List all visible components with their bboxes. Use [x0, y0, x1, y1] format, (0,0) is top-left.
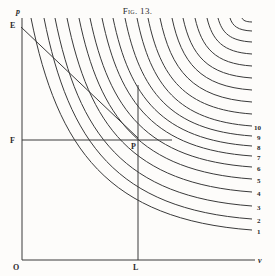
curve-18 [230, 18, 252, 31]
curve-label-9: 9 [257, 135, 261, 142]
curve-label-10: 10 [254, 125, 261, 132]
curve-label-5: 5 [257, 178, 261, 185]
curve-3 [55, 18, 252, 206]
point-label-f: F [10, 137, 15, 145]
point-label-p: P [131, 143, 136, 151]
curve-label-6: 6 [257, 166, 261, 173]
curve-14 [183, 18, 252, 78]
curve-6 [90, 18, 252, 167]
point-label-l: L [133, 264, 138, 272]
curve-label-8: 8 [257, 145, 261, 152]
curve-19 [242, 18, 252, 22]
curve-label-3: 3 [257, 205, 261, 212]
point-label-e: E [10, 22, 15, 30]
axis-label-v: v [258, 257, 262, 265]
origin-label-o: O [13, 264, 19, 272]
curve-label-7: 7 [257, 155, 261, 162]
curve-15 [195, 18, 252, 66]
curve-12 [160, 18, 252, 102]
curve-10 [137, 18, 252, 126]
figure-page: Fig. 13. p E F P O L v 12345678910 [0, 0, 275, 276]
isothermal-curves [31, 18, 252, 230]
curve-1 [31, 18, 252, 230]
curve-label-2: 2 [257, 218, 261, 225]
curve-label-4: 4 [257, 191, 261, 198]
pv-diagram [0, 0, 275, 276]
curve-label-1: 1 [257, 229, 261, 236]
axis-label-p: p [16, 8, 20, 16]
